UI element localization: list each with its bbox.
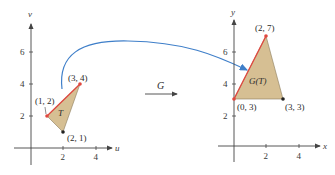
vertex-label-3-3: (3, 3): [285, 102, 305, 112]
y-tick-2: 2: [223, 111, 228, 121]
v-tick-4: 4: [20, 79, 25, 89]
region-T: [47, 84, 80, 132]
v-tick-2: 2: [20, 111, 25, 121]
x-tick-2: 2: [264, 151, 269, 161]
vertex-label-0-3: (0, 3): [237, 102, 257, 112]
v-tick-6: 6: [20, 47, 25, 57]
vertex-label-2-7: (2, 7): [255, 23, 275, 33]
x-axis-label: x: [322, 141, 327, 151]
vertex-label-3-4: (3, 4): [68, 73, 88, 83]
left-plot: u v 2 4 6 4 2 T (1, 2) (3, 4) (2, 1): [14, 9, 120, 165]
vertex-label-2-1: (2, 1): [67, 133, 87, 143]
u-tick-4: 4: [94, 152, 99, 162]
u-tick-2: 2: [61, 152, 66, 162]
v-axis-label: v: [28, 9, 32, 19]
region-GT-label: G(T): [249, 76, 267, 86]
vertex-label-1-2: (1, 2): [35, 96, 55, 106]
y-tick-6: 6: [223, 47, 228, 57]
right-plot: x y 2 4 6 4 2 G(T) (2, 7) (0, 3) (3, 3): [218, 7, 327, 162]
x-tick-4: 4: [297, 151, 302, 161]
mapping-arrow: [62, 41, 247, 89]
transformation-diagram: u v 2 4 6 4 2 T (1, 2) (3, 4) (2, 1) G x…: [0, 0, 335, 175]
transform-label: G: [157, 80, 164, 91]
y-tick-4: 4: [223, 79, 228, 89]
y-axis-label: y: [230, 7, 235, 17]
u-axis-label: u: [115, 143, 120, 153]
